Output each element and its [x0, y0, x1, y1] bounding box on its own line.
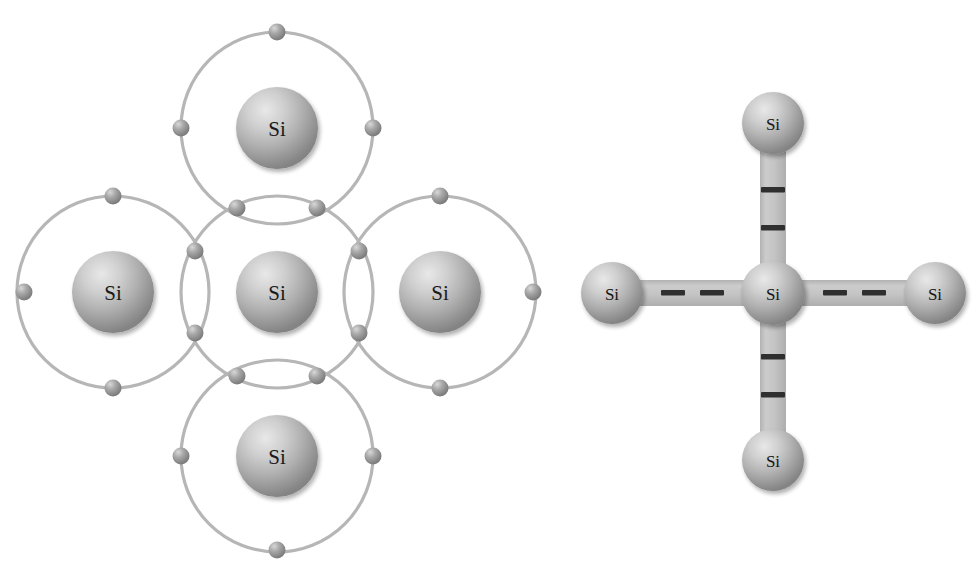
figure-canvas: Si Si Si Si Si — [0, 0, 976, 563]
bond-atom-label-bottom: Si — [766, 452, 780, 471]
silicon-bonding-figure: Si Si Si Si Si — [0, 0, 976, 563]
bond-atom-label-center: Si — [766, 285, 780, 304]
electron-shared-left-upper — [187, 243, 204, 260]
dash-right-1 — [823, 290, 847, 296]
electron-bottom-atom-left — [173, 448, 190, 465]
electron-left-atom-down — [105, 380, 122, 397]
dash-top-2 — [761, 225, 785, 231]
bond-atom-label-left: Si — [605, 285, 619, 304]
atom-label-center: Si — [268, 281, 286, 305]
electron-left-atom-up — [105, 188, 122, 205]
electron-shared-top-right — [309, 200, 326, 217]
electron-right-atom-right — [525, 284, 542, 301]
electron-right-atom-up — [432, 188, 449, 205]
electron-shared-right-lower — [351, 325, 368, 342]
atom-label-bottom: Si — [268, 445, 286, 469]
electron-left-atom-left — [16, 284, 33, 301]
panel-covalent-bond-model: Si Si Si Si Si — [581, 92, 966, 491]
dash-left-1 — [661, 290, 685, 296]
dash-top-1 — [761, 187, 785, 193]
atom-label-right: Si — [431, 281, 449, 305]
electron-bottom-atom-down — [269, 542, 286, 559]
dash-bottom-2 — [761, 392, 785, 398]
panel-shared-electron-model: Si Si Si Si Si — [16, 24, 542, 559]
dash-right-2 — [862, 290, 886, 296]
electron-top-atom-up — [269, 24, 286, 41]
electron-shared-bottom-right — [309, 368, 326, 385]
electron-bottom-atom-right — [365, 448, 382, 465]
electron-shared-top-left — [229, 200, 246, 217]
electron-top-atom-left — [173, 120, 190, 137]
electron-top-atom-right — [365, 120, 382, 137]
electron-shared-right-upper — [351, 243, 368, 260]
atom-label-left: Si — [104, 281, 122, 305]
electron-shared-bottom-left — [229, 368, 246, 385]
electron-shared-left-lower — [187, 325, 204, 342]
electron-right-atom-down — [432, 380, 449, 397]
dash-bottom-1 — [761, 354, 785, 360]
bond-atom-label-right: Si — [928, 285, 942, 304]
bond-atom-label-top: Si — [766, 115, 780, 134]
dash-left-2 — [700, 290, 724, 296]
atom-label-top: Si — [268, 117, 286, 141]
